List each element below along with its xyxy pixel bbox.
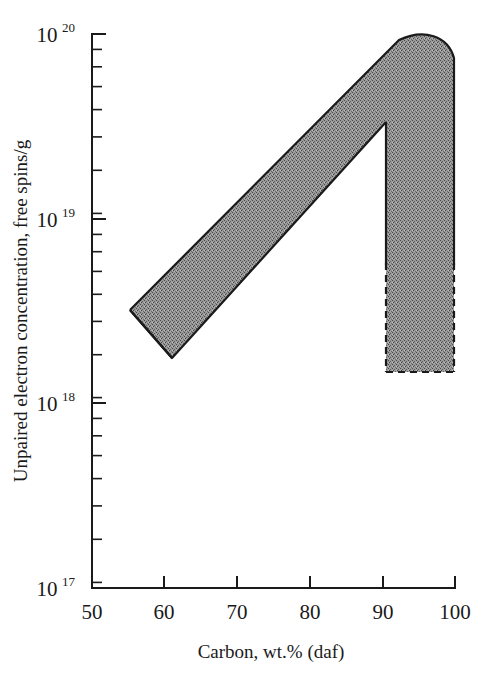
y-tick-exponent: 17 (62, 574, 76, 589)
x-axis-major-ticks (92, 576, 455, 588)
x-axis-title: Carbon, wt.% (daf) (198, 641, 345, 663)
x-tick-label: 100 (439, 600, 471, 624)
y-axis-minor-ticks (92, 49, 102, 582)
y-axis-tick-labels: 10 20 10 19 10 18 10 17 (37, 20, 76, 601)
y-tick-exponent: 18 (62, 389, 75, 404)
y-tick-mantissa: 10 (37, 208, 58, 232)
y-tick-mantissa: 10 (37, 392, 58, 416)
chart-figure: 10 20 10 19 10 18 10 17 50 60 70 80 90 1… (0, 0, 489, 677)
y-tick-label-1e18: 10 18 (37, 389, 76, 416)
data-band (130, 34, 454, 372)
y-tick-exponent: 20 (62, 20, 75, 35)
x-tick-label: 90 (373, 600, 394, 624)
y-axis-major-ticks (92, 34, 106, 588)
x-tick-label: 60 (154, 600, 175, 624)
chart-svg: 10 20 10 19 10 18 10 17 50 60 70 80 90 1… (0, 0, 489, 677)
x-axis-tick-labels: 50 60 70 80 90 100 (82, 600, 471, 624)
y-tick-exponent: 19 (62, 205, 75, 220)
y-tick-label-1e20: 10 20 (37, 20, 76, 47)
y-axis-title: Unpaired electron concentration, free sp… (10, 139, 31, 482)
band-shaded-area (130, 34, 454, 372)
x-tick-label: 80 (300, 600, 321, 624)
y-tick-label-1e17: 10 17 (37, 574, 76, 601)
x-tick-label: 70 (227, 600, 248, 624)
y-tick-mantissa: 10 (37, 577, 58, 601)
y-tick-mantissa: 10 (37, 23, 58, 47)
x-tick-label: 50 (82, 600, 103, 624)
y-tick-label-1e19: 10 19 (37, 205, 76, 232)
